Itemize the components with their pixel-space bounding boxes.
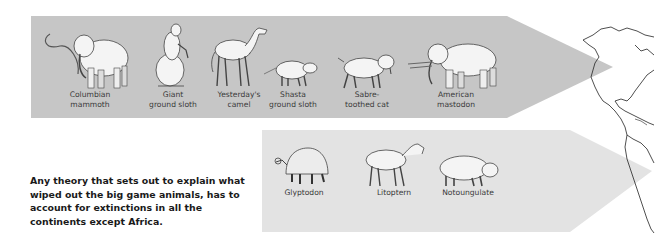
notoungulate-illustration-icon — [432, 152, 504, 188]
animal-label: Columbian mammoth — [40, 90, 140, 110]
ground-sloth-illustration-icon — [148, 22, 198, 90]
animal-label: Glyptodon — [274, 188, 334, 198]
animal-columbian-mammoth: Columbian mammoth — [40, 24, 140, 110]
animal-label: American mastodon — [404, 90, 508, 110]
animal-label: Shasta ground sloth — [262, 90, 324, 110]
animal-shasta-ground-sloth: Shasta ground sloth — [262, 58, 324, 110]
animal-label: Notoungulate — [432, 188, 504, 198]
mammoth-illustration-icon — [40, 24, 140, 90]
animal-glyptodon: Glyptodon — [274, 146, 334, 198]
mastodon-illustration-icon — [404, 38, 508, 90]
animal-notoungulate: Notoungulate — [432, 152, 504, 198]
glyptodon-illustration-icon — [274, 146, 334, 188]
litoptern-illustration-icon — [358, 140, 430, 188]
animal-litoptern: Litoptern — [358, 140, 430, 198]
animal-giant-ground-sloth: Giant ground sloth — [148, 22, 198, 110]
animal-label: Giant ground sloth — [148, 90, 198, 110]
animal-american-mastodon: American mastodon — [404, 38, 508, 110]
americas-map-icon — [575, 15, 655, 240]
shasta-sloth-illustration-icon — [262, 58, 324, 90]
caption-text: Any theory that sets out to explain what… — [30, 174, 250, 228]
animal-label: Sabre- toothed cat — [334, 90, 400, 110]
animal-sabre-toothed-cat: Sabre- toothed cat — [334, 50, 400, 110]
animal-label: Litoptern — [358, 188, 430, 198]
sabre-cat-illustration-icon — [334, 50, 400, 90]
